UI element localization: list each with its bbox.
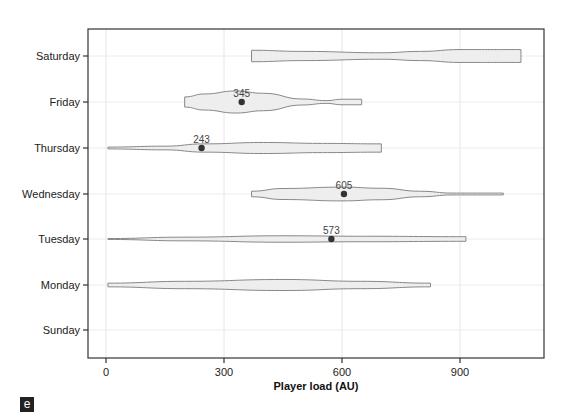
- median-label-friday: 345: [233, 88, 250, 99]
- median-label-wednesday: 605: [336, 180, 353, 191]
- violin-wednesday: [252, 187, 504, 201]
- median-dot-thursday: [198, 145, 204, 151]
- x-tick-label-0: 0: [103, 366, 109, 378]
- violin-friday: [185, 91, 362, 113]
- panel-label: e: [20, 397, 34, 412]
- median-dot-wednesday: [341, 191, 347, 197]
- x-axis-title: Player load (AU): [274, 380, 359, 392]
- y-tick-label-saturday: Saturday: [36, 50, 81, 62]
- median-label-tuesday: 573: [323, 225, 340, 236]
- y-tick-label-monday: Monday: [41, 279, 81, 291]
- x-tick-label-600: 600: [333, 366, 351, 378]
- median-dot-tuesday: [328, 236, 334, 242]
- x-tick-label-900: 900: [451, 366, 469, 378]
- y-tick-label-sunday: Sunday: [43, 324, 81, 336]
- violin-monday: [108, 279, 431, 290]
- violin-thursday: [108, 142, 381, 153]
- violin-saturday: [252, 50, 521, 63]
- y-axis: SaturdayFridayThursdayWednesdayTuesdayMo…: [22, 50, 88, 336]
- violins: 345243605573: [108, 50, 521, 291]
- violin-chart: 345243605573 SaturdayFridayThursdayWedne…: [0, 0, 567, 419]
- x-axis: 0300600900: [103, 358, 469, 378]
- median-label-thursday: 243: [193, 134, 210, 145]
- y-tick-label-tuesday: Tuesday: [38, 233, 80, 245]
- violin-tuesday: [108, 236, 466, 242]
- median-dot-friday: [239, 99, 245, 105]
- y-tick-label-thursday: Thursday: [34, 142, 80, 154]
- y-tick-label-wednesday: Wednesday: [22, 188, 80, 200]
- y-tick-label-friday: Friday: [49, 96, 80, 108]
- x-tick-label-300: 300: [215, 366, 233, 378]
